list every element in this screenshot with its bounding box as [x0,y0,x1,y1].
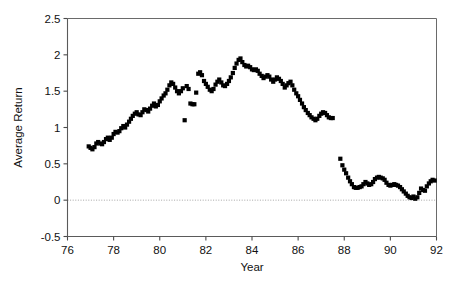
chart-figure: -0.500.511.522.5767880828486889092YearAv… [0,0,464,294]
data-point-marker [92,145,96,149]
data-point-marker [200,73,204,77]
y-axis-tick-label: 0 [54,194,60,206]
y-axis-tick-label: -0.5 [41,231,61,243]
y-axis-tick-label: 1.5 [45,85,61,97]
data-point-marker [415,195,419,199]
data-point-marker [194,91,198,95]
data-point-marker [156,103,160,107]
y-axis-tick-label: 2 [54,49,60,61]
x-axis-tick-label: 78 [107,244,120,256]
data-point-marker [165,88,169,92]
x-axis-tick-label: 76 [61,244,74,256]
data-point-marker [417,191,421,195]
data-point-marker [288,80,292,84]
data-point-marker [296,94,300,98]
data-point-marker [344,171,348,175]
y-axis-title: Average Return [12,87,24,167]
data-point-marker [227,79,231,83]
data-point-marker [338,157,342,161]
data-point-marker [229,75,233,79]
x-axis-tick-label: 90 [384,244,397,256]
data-point-marker [163,91,167,95]
data-point-marker [346,176,350,180]
chart-canvas: -0.500.511.522.5767880828486889092YearAv… [0,0,464,294]
data-point-marker [292,88,296,92]
y-axis-tick-label: 1 [54,122,60,134]
y-axis-tick-label: 0.5 [45,158,61,170]
data-point-marker [233,66,237,70]
data-point-marker [433,178,437,182]
data-point-marker [290,83,294,87]
x-axis-title: Year [240,261,263,273]
x-axis-tick-label: 92 [430,244,443,256]
data-point-marker [423,189,427,193]
x-axis-tick-label: 88 [338,244,351,256]
data-point-marker [231,71,235,75]
x-axis-tick-label: 80 [153,244,166,256]
data-point-marker [181,86,185,90]
x-axis-tick-label: 84 [246,244,259,256]
data-point-marker [331,116,335,120]
data-point-marker [192,102,196,106]
data-point-marker [234,61,238,65]
data-point-marker [171,82,175,86]
data-point-marker [340,163,344,167]
data-point-marker [342,168,346,172]
data-point-marker [211,87,215,91]
data-point-marker [298,98,302,102]
x-axis-tick-label: 82 [199,244,212,256]
data-point-marker [173,85,177,89]
data-point-marker [300,101,304,105]
data-point-marker [186,87,190,91]
y-axis-tick-label: 2.5 [45,13,61,25]
data-point-marker [238,56,242,60]
data-point-marker [110,136,114,140]
data-point-marker [183,118,187,122]
data-point-marker [281,82,285,86]
x-axis-tick-label: 86 [292,244,305,256]
